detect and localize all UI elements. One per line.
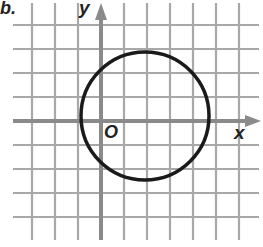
problem-label: b. <box>0 0 16 18</box>
y-axis-arrow-icon <box>95 3 107 20</box>
axes <box>13 3 261 240</box>
x-axis-arrow-icon <box>245 115 261 127</box>
x-axis-label: x <box>233 122 246 143</box>
y-axis-label: y <box>78 0 91 18</box>
origin-label: O <box>104 122 118 142</box>
coordinate-grid-figure: b. y x O <box>0 0 263 247</box>
